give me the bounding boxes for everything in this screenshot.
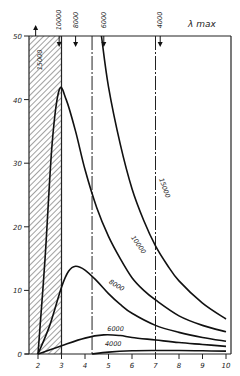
x-tick-label: 2 xyxy=(36,362,41,370)
curve-label: 4000 xyxy=(105,340,122,348)
arrow-up-icon xyxy=(33,25,38,30)
x-tick-label: 3 xyxy=(59,362,63,370)
curve-labels: 1500010000800060004000 xyxy=(105,177,172,348)
marker-label: 4000 xyxy=(156,12,164,29)
legend-title: λ max xyxy=(187,19,216,29)
x-tick-label: 5 xyxy=(106,362,111,370)
curves xyxy=(38,36,226,354)
shaded-region xyxy=(29,36,62,354)
x-tick-label: 10 xyxy=(222,362,231,370)
x-tick-label: 7 xyxy=(153,362,158,370)
y-tick-label: 50 xyxy=(13,33,22,41)
x-tick-label: 9 xyxy=(200,362,205,370)
y-tick-label: 20 xyxy=(13,224,22,232)
x-tick-label: 4 xyxy=(83,362,87,370)
marker-label: 8000 xyxy=(72,12,80,29)
arrow-down-icon xyxy=(158,42,163,47)
y-tick-label: 0 xyxy=(18,351,23,359)
marker-label: 10000 xyxy=(55,10,63,31)
x-tick-label: 8 xyxy=(177,362,182,370)
curve-label: 8000 xyxy=(107,278,125,293)
x-tick-label: 6 xyxy=(130,362,135,370)
arrow-down-icon xyxy=(73,42,78,47)
curve-label: 15000 xyxy=(157,177,172,199)
curve-label: 10000 xyxy=(129,234,147,256)
marker-label: 6000 xyxy=(100,12,108,29)
blackbody-chart: 010203040502345678910 150001000080006000… xyxy=(0,0,240,376)
hatch-area xyxy=(29,36,62,354)
y-tick-label: 30 xyxy=(13,160,22,168)
marker-label: 15000 xyxy=(36,50,44,71)
curve-8000 xyxy=(38,266,226,354)
y-tick-label: 10 xyxy=(13,287,22,295)
curve-label: 6000 xyxy=(107,325,124,333)
y-tick-label: 40 xyxy=(13,97,22,105)
